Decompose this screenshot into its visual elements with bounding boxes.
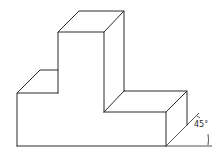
angle-dimension: 45° [166,113,212,146]
tall-block [58,11,124,112]
left-step [17,70,58,146]
angle-label: 45° [194,120,208,129]
oblique-block-drawing: 45° [0,0,222,161]
